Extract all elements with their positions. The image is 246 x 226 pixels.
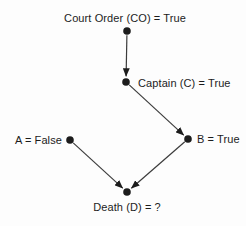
diagram-svg: Court Order (CO) = TrueCaptain (C) = Tru… [0, 0, 246, 226]
causal-diagram-page: Court Order (CO) = TrueCaptain (C) = Tru… [0, 0, 246, 226]
diagram-background [0, 0, 246, 226]
node-A-dot [66, 136, 74, 144]
node-CO-dot [123, 27, 131, 35]
node-CO-label: Court Order (CO) = True [64, 12, 186, 24]
node-B-label: B = True [197, 133, 240, 145]
node-C-label: Captain (C) = True [138, 77, 231, 89]
node-D-dot [123, 188, 131, 196]
node-A-label: A = False [15, 134, 62, 146]
node-B-dot [184, 135, 192, 143]
node-D-label: Death (D) = ? [93, 201, 161, 213]
node-C-dot [122, 78, 130, 86]
edge-CO-C [126, 35, 127, 76]
